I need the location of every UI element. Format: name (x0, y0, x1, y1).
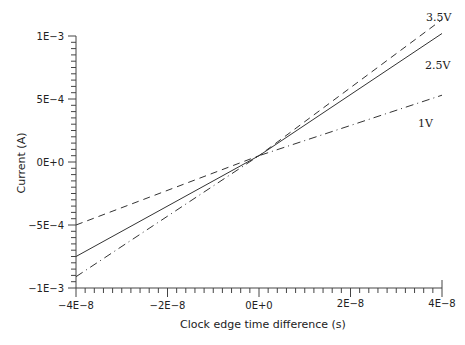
y-tick-label: 0E+0 (37, 157, 64, 168)
x-tick-label: −2E−8 (150, 300, 186, 311)
x-tick-label: 2E−8 (337, 298, 364, 309)
series-lines (76, 20, 442, 277)
y-tick-label: −5E−4 (28, 220, 64, 231)
x-tick-label: −4E−8 (58, 300, 94, 311)
series-label-3-5v: 3.5V (426, 11, 452, 24)
series-line-3-5v (76, 20, 442, 225)
series-label-2-5v: 2.5V (425, 59, 451, 72)
series-line-1v (76, 95, 442, 277)
y-tick-label: −1E−3 (28, 283, 64, 294)
minor-ticks (71, 42, 433, 293)
current-vs-time-chart: 1E−3 5E−4 0E+0 −5E−4 −1E−3 −4E−8 −2E−8 0… (0, 0, 465, 345)
y-tick-label: 1E−3 (37, 31, 64, 42)
series-label-1v: 1V (418, 117, 434, 130)
x-tick-label: 4E−8 (428, 298, 455, 309)
x-axis-title: Clock edge time difference (s) (180, 318, 346, 331)
x-tick-label: 0E+0 (245, 300, 272, 311)
y-tick-label: 5E−4 (37, 94, 64, 105)
y-axis-title: Current (A) (15, 133, 28, 194)
series-line-2-5v (76, 34, 442, 257)
